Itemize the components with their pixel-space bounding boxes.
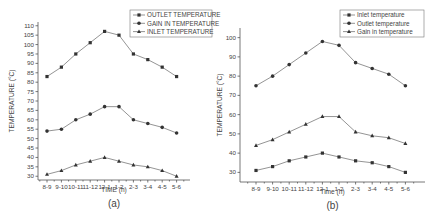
series-gain-in-temperature [254,114,407,147]
x-tick-label: 11-12 [298,185,314,192]
data-point [304,51,308,55]
data-point [321,40,325,44]
y-tick-label: 100 [226,34,237,41]
series-inlet-temperature [254,152,407,174]
legend-label: Inlet temperature [357,11,405,19]
y-tick-label: 90 [229,53,236,60]
data-point [287,63,291,67]
x-tick-label: 10-11 [282,185,298,192]
x-tick-label: 5-6 [401,185,411,192]
x-axis-title: Time (h) [320,188,344,196]
data-point [354,61,358,65]
y-tick-label: 50 [229,130,236,137]
data-point [387,165,390,168]
y-tick-label: 40 [229,149,236,156]
data-point [254,169,257,172]
data-point [254,84,258,88]
x-tick-label: 2-3 [351,185,361,192]
data-point [387,72,391,76]
data-point [404,84,408,88]
figure: 30354045505560657075808590951001051108-9… [0,0,440,213]
data-point [271,74,275,78]
data-point [354,159,357,162]
y-tick-label: 70 [229,91,236,98]
x-tick-label: 4-5 [384,185,394,192]
data-point [271,165,274,168]
data-point [370,67,374,71]
data-point [321,152,324,155]
x-tick-label: 3-4 [368,185,378,192]
legend: Inlet temperatureOutlet temperatureGain … [340,10,424,37]
data-point [337,155,340,158]
legend-label: Gain in temperature [357,28,413,36]
legend-label: Outlet temperature [357,20,410,28]
x-tick-label: 8-9 [252,185,262,192]
figure-caption: (b) [326,200,338,211]
y-axis-title: TEMPERATURE (°C) [216,74,224,137]
data-point [288,159,291,162]
x-tick-label: 9-10 [266,185,279,192]
data-point [371,161,374,164]
legend-marker-icon [347,13,350,16]
legend-marker-icon [347,22,351,26]
y-tick-label: 80 [229,72,236,79]
y-tick-label: 60 [229,111,236,118]
chart-b: 304050607080901008-99-1010-1111-1212-11-… [0,0,440,213]
data-point [404,171,407,174]
y-tick-label: 30 [229,168,236,175]
data-point [337,44,341,48]
data-point [304,155,307,158]
series-outlet-temperature [254,40,407,88]
